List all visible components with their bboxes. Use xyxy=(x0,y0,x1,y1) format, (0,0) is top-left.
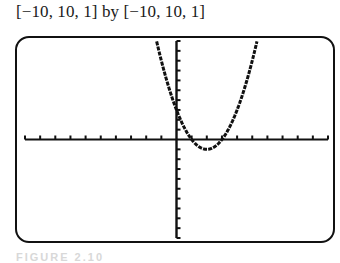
figure-caption: FIGURE 2.10 xyxy=(16,251,104,263)
parabola-curve xyxy=(157,41,257,149)
